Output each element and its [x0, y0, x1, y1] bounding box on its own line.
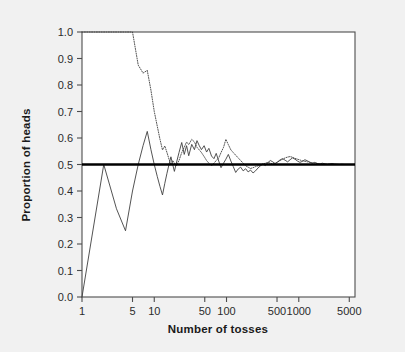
x-axis-tick-label: 100	[217, 305, 235, 317]
y-axis-tick-label: 1.0	[58, 26, 73, 38]
y-axis-tick-label: 0.2	[58, 238, 73, 250]
y-axis-tick-label: 0.5	[58, 159, 73, 171]
y-axis-tick-label: 0.1	[58, 265, 73, 277]
x-axis-tick-label: 500	[268, 305, 286, 317]
y-axis-tick-label: 0.9	[58, 53, 73, 65]
y-axis-tick-label: 0.8	[58, 79, 73, 91]
coin-toss-convergence-chart: 0.00.10.20.30.40.50.60.70.80.91.01510501…	[0, 0, 405, 352]
x-axis-tick-label: 50	[199, 305, 211, 317]
x-axis-tick-label: 5	[129, 305, 135, 317]
y-axis-tick-label: 0.3	[58, 212, 73, 224]
x-axis-tick-label: 1000	[287, 305, 311, 317]
x-axis-tick-label: 10	[148, 305, 160, 317]
x-axis-tick-label: 5000	[337, 305, 361, 317]
y-axis-tick-label: 0.4	[58, 185, 73, 197]
x-axis-tick-label: 1	[79, 305, 85, 317]
y-axis-title: Proportion of heads	[20, 108, 32, 221]
chart-figure: 0.00.10.20.30.40.50.60.70.80.91.01510501…	[0, 0, 405, 352]
y-axis-tick-label: 0.6	[58, 132, 73, 144]
y-axis-tick-label: 0.7	[58, 106, 73, 118]
y-axis-tick-label: 0.0	[58, 291, 73, 303]
x-axis-title: Number of tosses	[168, 323, 268, 335]
